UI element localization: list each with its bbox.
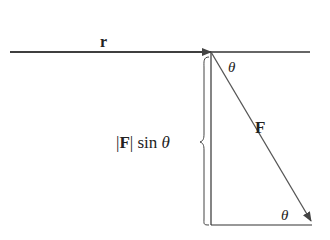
F-label: F (255, 118, 265, 137)
perpendicular-component-label: |F| sin θ (116, 133, 170, 152)
theta-symbol: θ (162, 133, 170, 152)
theta-top-label: θ (228, 59, 236, 75)
sin-text: sin (133, 133, 161, 152)
F-magnitude: F (119, 133, 129, 152)
torque-diagram: r θ F θ |F| sin θ (0, 0, 330, 240)
theta-bottom-label: θ (281, 207, 289, 223)
r-label: r (100, 33, 107, 50)
brace (200, 57, 209, 225)
